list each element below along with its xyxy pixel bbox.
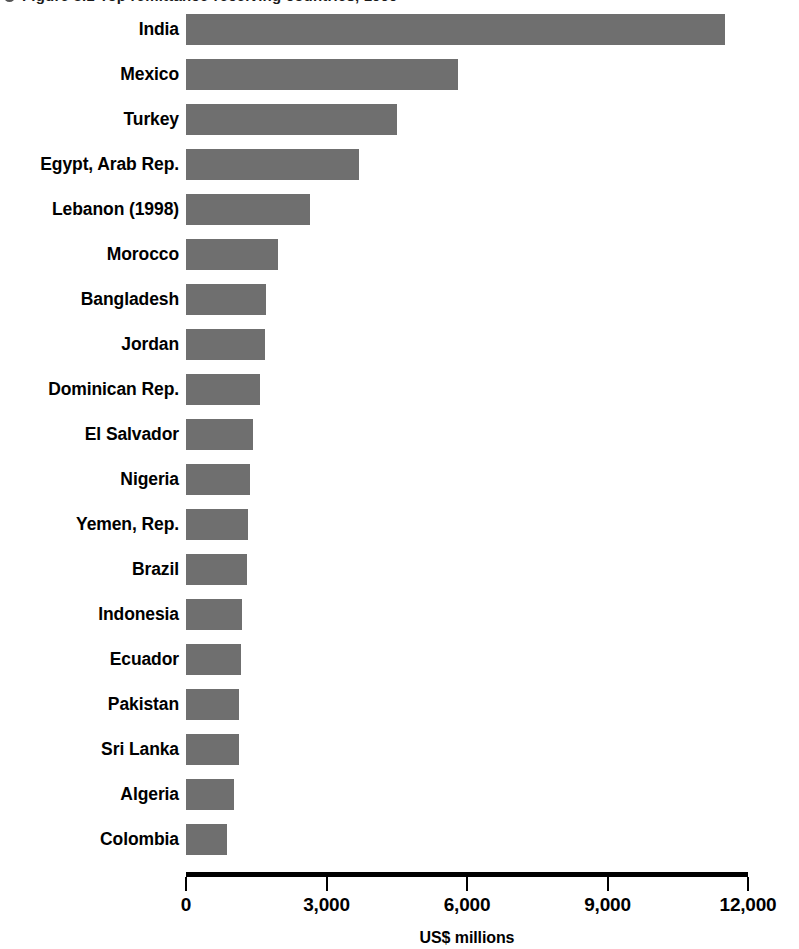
bar-track xyxy=(186,682,748,727)
category-label: Dominican Rep. xyxy=(48,367,179,412)
category-label: Yemen, Rep. xyxy=(76,502,179,547)
bar-row: Ecuador xyxy=(0,637,799,682)
bar-row: Jordan xyxy=(0,322,799,367)
bar-row: Morocco xyxy=(0,232,799,277)
bar-track xyxy=(186,97,748,142)
x-axis: 03,0006,0009,00012,000 US$ millions xyxy=(0,872,799,949)
category-label: Indonesia xyxy=(98,592,179,637)
bar[interactable] xyxy=(186,104,397,135)
category-label: Sri Lanka xyxy=(101,727,179,772)
bar-track xyxy=(186,187,748,232)
bar-track xyxy=(186,457,748,502)
figure-title-strip: Figure 3.1 Top remittance-receiving coun… xyxy=(0,0,799,7)
x-axis-title: US$ millions xyxy=(186,929,748,947)
bar-track xyxy=(186,727,748,772)
bar-track xyxy=(186,52,748,97)
x-axis-tick xyxy=(466,877,468,891)
category-label: Brazil xyxy=(132,547,179,592)
bar[interactable] xyxy=(186,599,242,630)
bar[interactable] xyxy=(186,239,278,270)
category-label: Algeria xyxy=(120,772,179,817)
bar[interactable] xyxy=(186,419,253,450)
bar-row: Nigeria xyxy=(0,457,799,502)
category-label: Ecuador xyxy=(110,637,179,682)
bar[interactable] xyxy=(186,284,266,315)
category-label: Nigeria xyxy=(120,457,179,502)
bar[interactable] xyxy=(186,374,260,405)
category-label: Colombia xyxy=(100,817,179,862)
figure-title-text: Figure 3.1 Top remittance-receiving coun… xyxy=(22,0,398,4)
bar[interactable] xyxy=(186,464,250,495)
x-axis-tick-label: 9,000 xyxy=(584,894,631,916)
bar-track xyxy=(186,502,748,547)
category-label: Jordan xyxy=(121,322,179,367)
category-label: Lebanon (1998) xyxy=(52,187,179,232)
bar-track xyxy=(186,772,748,817)
x-axis-tick xyxy=(326,877,328,891)
bar-row: Egypt, Arab Rep. xyxy=(0,142,799,187)
bar-chart: IndiaMexicoTurkeyEgypt, Arab Rep.Lebanon… xyxy=(0,7,799,938)
bar[interactable] xyxy=(186,689,239,720)
bar-track xyxy=(186,142,748,187)
bar[interactable] xyxy=(186,59,458,90)
bar-track xyxy=(186,367,748,412)
bar-row: Yemen, Rep. xyxy=(0,502,799,547)
bar-row: Sri Lanka xyxy=(0,727,799,772)
bar[interactable] xyxy=(186,644,241,675)
category-label: El Salvador xyxy=(85,412,179,457)
bar-track xyxy=(186,637,748,682)
bar[interactable] xyxy=(186,194,310,225)
bar-track xyxy=(186,547,748,592)
category-label: Pakistan xyxy=(108,682,179,727)
x-axis-tick xyxy=(185,877,187,891)
x-axis-tick xyxy=(747,877,749,891)
category-label: Turkey xyxy=(124,97,180,142)
bar-track xyxy=(186,7,748,52)
x-axis-tick-label: 0 xyxy=(181,894,191,916)
bullet-dot-icon xyxy=(4,0,15,2)
bar-row: Dominican Rep. xyxy=(0,367,799,412)
bar[interactable] xyxy=(186,149,359,180)
category-label: Bangladesh xyxy=(81,277,179,322)
bar-row: Turkey xyxy=(0,97,799,142)
bar[interactable] xyxy=(186,329,265,360)
x-axis-tick xyxy=(607,877,609,891)
bar-track xyxy=(186,412,748,457)
figure-title: Figure 3.1 Top remittance-receiving coun… xyxy=(4,0,398,4)
bar-row: El Salvador xyxy=(0,412,799,457)
category-label: Mexico xyxy=(120,52,179,97)
bar-track xyxy=(186,592,748,637)
bar[interactable] xyxy=(186,734,239,765)
bar-row: Indonesia xyxy=(0,592,799,637)
x-axis-tick-label: 6,000 xyxy=(444,894,491,916)
bar-track xyxy=(186,817,748,862)
bar-track xyxy=(186,232,748,277)
bar[interactable] xyxy=(186,14,725,45)
bar-row: Brazil xyxy=(0,547,799,592)
bar-row: Pakistan xyxy=(0,682,799,727)
bar-row: Bangladesh xyxy=(0,277,799,322)
bar-row: Colombia xyxy=(0,817,799,862)
bar-track xyxy=(186,322,748,367)
bar[interactable] xyxy=(186,554,247,585)
category-label: Morocco xyxy=(107,232,179,277)
bar-track xyxy=(186,277,748,322)
x-axis-tick-label: 12,000 xyxy=(720,894,777,916)
chart-plot-area: IndiaMexicoTurkeyEgypt, Arab Rep.Lebanon… xyxy=(0,7,799,862)
category-label: India xyxy=(139,7,179,52)
bar-row: Algeria xyxy=(0,772,799,817)
x-axis-tick-label: 3,000 xyxy=(303,894,350,916)
bar[interactable] xyxy=(186,824,227,855)
bar-row: Mexico xyxy=(0,52,799,97)
bar[interactable] xyxy=(186,779,234,810)
bar[interactable] xyxy=(186,509,248,540)
bar-row: Lebanon (1998) xyxy=(0,187,799,232)
bar-row: India xyxy=(0,7,799,52)
category-label: Egypt, Arab Rep. xyxy=(40,142,179,187)
